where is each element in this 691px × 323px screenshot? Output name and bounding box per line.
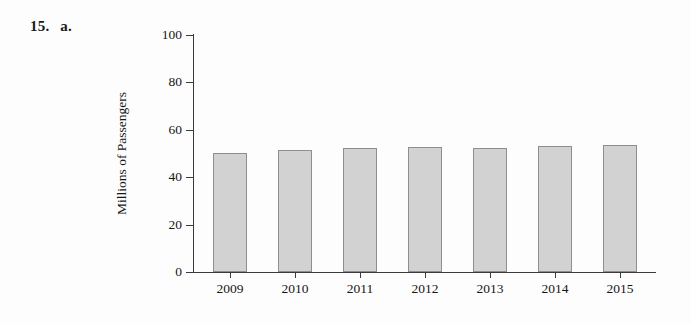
y-axis-tick [186,272,194,273]
bar-2014 [538,146,572,272]
y-axis-tick-label-text: 100 [138,28,182,41]
x-axis-tick-label-2011: 2011 [330,281,390,297]
problem-label: 15.a. [30,18,72,35]
y-axis-tick-label-text: 20 [138,218,182,231]
x-axis-tick [295,273,296,278]
bar-2011 [343,148,377,272]
problem-number: 15. [30,18,49,34]
y-axis-title: Millions of Passengers [112,35,132,272]
y-axis-tick-label-text: 60 [138,123,182,136]
x-axis-tick [555,273,556,278]
x-axis-tick-label-2015: 2015 [590,281,650,297]
x-axis-tick-label-2010: 2010 [265,281,325,297]
x-axis-tick-label-2013: 2013 [460,281,520,297]
x-axis-tick [360,273,361,278]
bar-2009 [213,153,247,272]
x-axis-tick-label-2014: 2014 [525,281,585,297]
bar-2015 [603,145,637,272]
y-axis-tick-label: 0 [130,265,182,278]
y-axis-tick-label: 80 [130,75,182,88]
y-axis-tick-label-text: 40 [138,170,182,183]
y-axis-tick-label: 60 [130,123,182,136]
bar-chart: 15.a. Millions of Passengers 02040608010… [0,0,691,323]
y-axis-tick-label: 100 [130,28,182,41]
x-axis-tick [230,273,231,278]
bar-2010 [278,150,312,272]
y-axis-tick-label: 40 [130,170,182,183]
y-axis-tick-label-text: 80 [138,75,182,88]
x-axis-tick [490,273,491,278]
x-axis-tick [425,273,426,278]
plot-area [193,35,655,272]
y-axis-tick-label-text: 0 [138,265,182,278]
x-axis-tick-label-2012: 2012 [395,281,455,297]
x-axis-tick [620,273,621,278]
x-axis-tick-label-2009: 2009 [200,281,260,297]
problem-part: a. [60,18,72,34]
bar-2012 [408,147,442,272]
y-axis-tick-label: 20 [130,218,182,231]
bar-2013 [473,148,507,272]
